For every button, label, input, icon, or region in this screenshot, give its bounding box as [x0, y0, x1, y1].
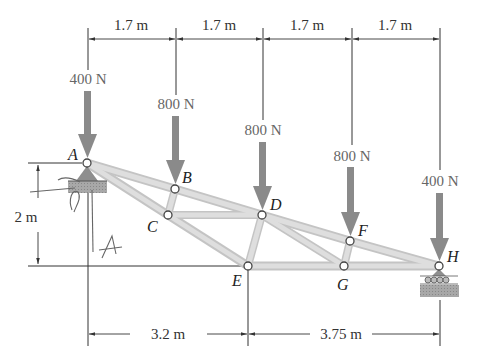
load-label-D: 800 N: [244, 122, 281, 138]
joint-D: [258, 211, 266, 219]
truss-diagram: 1.7 m 1.7 m 1.7 m 1.7 m 2 m 3.2 m 3.75 m: [0, 0, 480, 361]
dim-top-1: 1.7 m: [114, 17, 149, 33]
joint-label-A: A: [67, 146, 78, 163]
joint-B: [171, 185, 179, 193]
load-label-B: 800 N: [157, 96, 194, 112]
joint-C: [164, 211, 172, 219]
joint-label-E: E: [231, 272, 242, 289]
load-arrow-A: [78, 134, 97, 158]
joint-H: [435, 262, 443, 270]
load-label-A: 400 N: [69, 71, 106, 87]
dim-bottom-1: 3.2 m: [151, 326, 186, 342]
loads: 400 N 800 N 800 N 800 N 400 N: [69, 71, 458, 261]
dim-top-4: 1.7 m: [378, 17, 413, 33]
joint-F: [346, 237, 354, 245]
dim-top-3: 1.7 m: [290, 17, 325, 33]
joint-E: [244, 262, 252, 270]
joint-label-B: B: [182, 169, 192, 186]
joint-label-H: H: [446, 248, 460, 265]
dim-height: 2 m: [15, 209, 38, 225]
roller-support-H: [420, 269, 459, 297]
dim-bottom-2: 3.75 m: [320, 326, 362, 342]
joint-A: [83, 159, 91, 167]
dim-top-2: 1.7 m: [202, 17, 237, 33]
joint-G: [340, 262, 348, 270]
load-label-H: 400 N: [421, 173, 458, 189]
joint-label-D: D: [269, 196, 282, 213]
joint-label-C: C: [147, 218, 158, 235]
joint-label-G: G: [337, 276, 349, 293]
joint-label-F: F: [357, 222, 368, 239]
load-label-F: 800 N: [333, 148, 370, 164]
